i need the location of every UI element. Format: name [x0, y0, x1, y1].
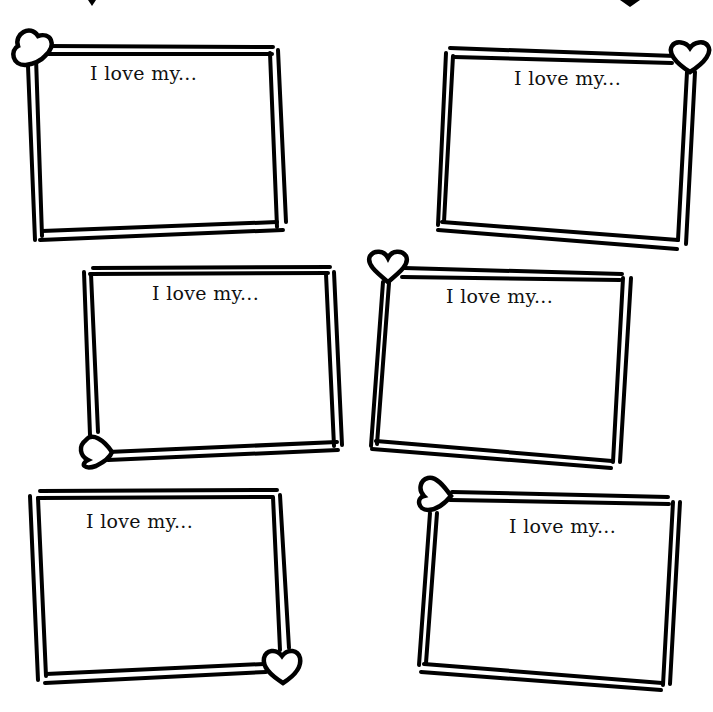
worksheet-page: I love my... I love my... I love my... I…: [0, 0, 713, 712]
heart-tip-icon: [620, 0, 640, 7]
heart-icon: [264, 651, 301, 683]
card-2-prompt: I love my...: [514, 67, 621, 89]
heart-icon: [419, 478, 451, 510]
card-1-prompt: I love my...: [90, 62, 197, 84]
card-4-prompt: I love my...: [446, 285, 553, 307]
heart-tip-icon: [88, 0, 96, 6]
frames-drawing: [0, 0, 713, 712]
heart-icon: [81, 437, 112, 468]
card-6-prompt: I love my...: [509, 515, 616, 537]
heart-icon: [13, 31, 51, 65]
card-3-prompt: I love my...: [152, 282, 259, 304]
heart-icon: [671, 42, 709, 72]
card-5-prompt: I love my...: [86, 510, 193, 532]
